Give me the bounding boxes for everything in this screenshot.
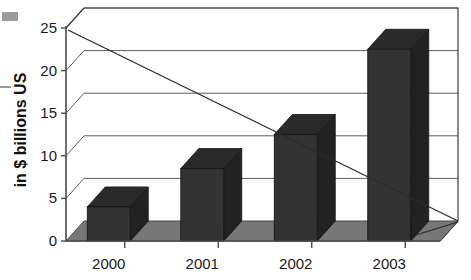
bar-chart-figure: 0510152025 2000200120022003 in $ billion…	[0, 0, 471, 280]
bars-group	[87, 29, 429, 241]
y-tick-label: 15	[40, 104, 57, 121]
bar-side-face	[411, 29, 429, 241]
y-tick-label: 5	[49, 189, 57, 206]
bar-side-face	[317, 115, 335, 242]
y-tick-label: 25	[40, 19, 57, 36]
chart-canvas: 0510152025 2000200120022003 in $ billion…	[0, 0, 471, 280]
bar-front-face	[87, 207, 130, 241]
bar-front-face	[181, 169, 224, 241]
bar-front-face	[274, 135, 317, 242]
y-tick-labels-group: 0510152025	[40, 19, 57, 249]
x-tick-label-2000: 2000	[92, 255, 125, 272]
x-tick-label-2003: 2003	[373, 255, 406, 272]
y-tick-label: 0	[49, 232, 57, 249]
gridline	[66, 8, 458, 28]
scan-artifact-dash	[0, 86, 11, 88]
x-tick-labels-group: 2000200120022003	[92, 255, 406, 272]
scan-artifact-square	[2, 12, 18, 21]
y-tick-label: 10	[40, 147, 57, 164]
bar-2001	[181, 149, 242, 241]
x-tick-label-2002: 2002	[279, 255, 312, 272]
x-tick-label-2001: 2001	[186, 255, 219, 272]
y-tick-label: 20	[40, 62, 57, 79]
bar-2002	[274, 115, 335, 242]
bar-front-face	[368, 49, 411, 241]
y-axis-title: in $ billions US	[12, 72, 29, 187]
bar-2003	[368, 29, 429, 241]
top-left-depth-edge	[66, 8, 84, 28]
